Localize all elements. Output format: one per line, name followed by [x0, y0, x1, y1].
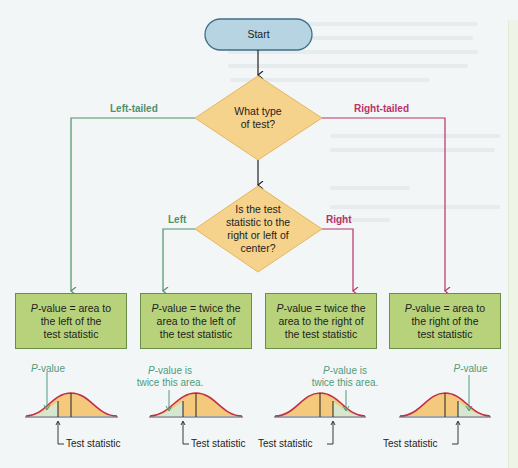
branch-label-left: Left: [168, 214, 186, 225]
p-italic: P: [31, 363, 38, 374]
annotation-line: -value is: [155, 365, 192, 376]
result-line: -value = area to: [38, 302, 111, 314]
annotation-line: twice this area.: [312, 377, 379, 388]
result-line: the test statistic: [160, 328, 232, 340]
result-line: the test statistic: [285, 328, 357, 340]
result-line: test statistic: [44, 328, 99, 340]
decision-test-type-label: What type of test?: [208, 105, 308, 131]
test-statistic-label-3: Test statistic: [258, 438, 312, 449]
result-line: -value = twice the: [159, 302, 241, 314]
annotation-p-value-4: P-value: [448, 363, 493, 375]
result-box-two-tailed-left: P-value = twice thearea to the left ofth…: [140, 293, 252, 349]
p-italic: P: [148, 365, 155, 376]
start-label: Start: [205, 28, 312, 41]
annotation-p-value-1: P-value: [28, 363, 68, 375]
result-line: area to the left of: [157, 315, 236, 327]
result-line: -value = twice the: [284, 302, 366, 314]
p-italic: P: [405, 302, 412, 314]
p-italic: P: [31, 302, 38, 314]
annotation-line: twice this area.: [137, 377, 204, 388]
normal-curve-two-tailed-right: [274, 390, 366, 444]
result-box-right-tailed: P-value = area tothe right of thetest st…: [389, 293, 501, 349]
decision2-line: center?: [203, 242, 313, 255]
result-line: -value = area to: [412, 302, 485, 314]
p-italic: P: [323, 365, 330, 376]
decision1-line: What type: [208, 105, 308, 118]
annotation-p-value-2: P-value istwice this area.: [130, 365, 210, 389]
result-line: test statistic: [418, 328, 473, 340]
result-box-two-tailed-right: P-value = twice thearea to the right oft…: [265, 293, 377, 349]
decision2-line: statistic to the: [203, 216, 313, 229]
result-box-left-tailed: P-value = area tothe left of thetest sta…: [15, 293, 127, 349]
normal-curve-right-tailed: [399, 375, 491, 444]
result-line: area to the right of: [278, 315, 363, 327]
decision2-line: right or left of: [203, 229, 313, 242]
decision-left-right-label: Is the test statistic to the right or le…: [203, 203, 313, 255]
annotation-line: -value: [460, 363, 487, 374]
branch-label-right: Right: [326, 214, 352, 225]
branch-label-left-tailed: Left-tailed: [110, 103, 158, 114]
branch-label-right-tailed: Right-tailed: [354, 103, 409, 114]
decision1-line: of test?: [208, 118, 308, 131]
test-statistic-label-1: Test statistic: [66, 438, 120, 449]
result-line: the right of the: [411, 315, 478, 327]
test-statistic-label-4: Test statistic: [383, 438, 437, 449]
normal-curve-left-tailed: [25, 372, 118, 444]
p-italic: P: [276, 302, 283, 314]
test-statistic-label-2: Test statistic: [191, 438, 245, 449]
annotation-line: -value: [38, 363, 65, 374]
decision2-line: Is the test: [203, 203, 313, 216]
normal-curve-two-tailed-left: [149, 390, 243, 444]
annotation-p-value-3: P-value istwice this area.: [305, 365, 385, 389]
result-line: the left of the: [41, 315, 102, 327]
p-italic: P: [151, 302, 158, 314]
annotation-line: -value is: [330, 365, 367, 376]
